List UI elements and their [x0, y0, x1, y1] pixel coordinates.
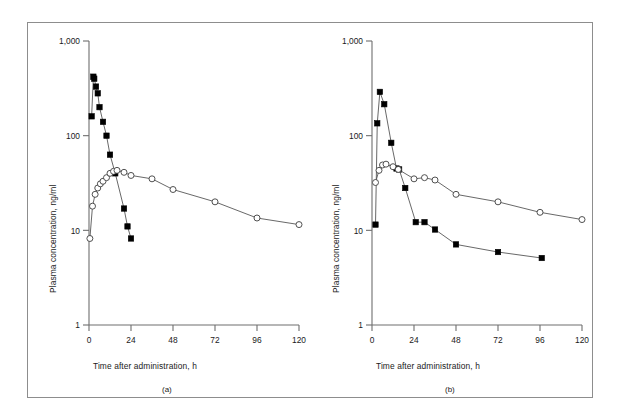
- plot-area-b: 1101001,000024487296120: [311, 23, 594, 399]
- svg-text:48: 48: [451, 335, 461, 345]
- chart-panel-a: 1101001,000024487296120 Plasma concentra…: [28, 23, 311, 399]
- data-point-filled-square: [92, 76, 97, 81]
- data-point-open-circle: [395, 166, 401, 172]
- svg-text:120: 120: [292, 335, 306, 345]
- svg-text:100: 100: [349, 131, 363, 141]
- figure-border: 1101001,000024487296120 Plasma concentra…: [27, 22, 593, 398]
- svg-text:48: 48: [168, 335, 178, 345]
- data-point-filled-square: [377, 89, 382, 94]
- y-axis-title-a: Plasma concentration, ng/ml: [48, 185, 58, 293]
- x-axis-title-a: Time after administration, h: [93, 361, 197, 371]
- y-axis-title-b: Plasma concentration, ng/ml: [331, 185, 341, 293]
- svg-text:72: 72: [493, 335, 503, 345]
- svg-text:10: 10: [71, 226, 81, 236]
- data-point-open-circle: [432, 177, 438, 183]
- svg-text:120: 120: [575, 335, 589, 345]
- data-point-open-circle: [212, 199, 218, 205]
- svg-text:10: 10: [354, 226, 364, 236]
- data-point-filled-square: [422, 219, 427, 224]
- data-point-open-circle: [296, 222, 302, 228]
- data-point-filled-square: [100, 119, 105, 124]
- data-point-filled-square: [495, 249, 500, 254]
- data-point-open-circle: [121, 169, 127, 175]
- panel-caption-b: (b): [445, 385, 455, 394]
- data-point-open-circle: [453, 191, 459, 197]
- data-point-open-circle: [254, 215, 260, 221]
- data-point-open-circle: [376, 167, 382, 173]
- data-point-filled-square: [539, 255, 544, 260]
- svg-text:96: 96: [252, 335, 262, 345]
- panel-caption-a: (a): [162, 385, 172, 394]
- svg-text:72: 72: [210, 335, 220, 345]
- data-point-filled-square: [375, 121, 380, 126]
- data-point-open-circle: [422, 175, 428, 181]
- data-point-filled-square: [95, 91, 100, 96]
- data-point-filled-square: [453, 242, 458, 247]
- svg-text:24: 24: [409, 335, 419, 345]
- svg-text:1,000: 1,000: [342, 36, 363, 46]
- data-point-filled-square: [125, 224, 130, 229]
- svg-text:1: 1: [75, 320, 80, 330]
- data-point-filled-square: [373, 222, 378, 227]
- svg-text:24: 24: [126, 335, 136, 345]
- data-point-open-circle: [170, 187, 176, 193]
- svg-text:96: 96: [535, 335, 545, 345]
- data-point-open-circle: [149, 176, 155, 182]
- series-line-filled-square-series: [376, 92, 542, 258]
- data-point-filled-square: [104, 133, 109, 138]
- data-point-filled-square: [107, 152, 112, 157]
- chart-panel-b: 1101001,000024487296120 Plasma concentra…: [311, 23, 594, 399]
- data-point-filled-square: [93, 84, 98, 89]
- svg-text:1,000: 1,000: [59, 36, 80, 46]
- data-point-open-circle: [579, 217, 585, 223]
- data-point-open-circle: [87, 235, 93, 241]
- data-point-open-circle: [537, 209, 543, 215]
- data-point-filled-square: [121, 206, 126, 211]
- data-point-filled-square: [382, 102, 387, 107]
- data-point-filled-square: [413, 219, 418, 224]
- data-point-open-circle: [373, 180, 379, 186]
- series-line-open-circle-series: [90, 170, 299, 238]
- data-point-open-circle: [495, 199, 501, 205]
- data-point-filled-square: [128, 236, 133, 241]
- x-axis-title-b: Time after administration, h: [376, 361, 480, 371]
- data-point-open-circle: [90, 203, 96, 209]
- svg-text:100: 100: [66, 131, 80, 141]
- data-point-open-circle: [114, 167, 120, 173]
- svg-text:0: 0: [87, 335, 92, 345]
- data-point-filled-square: [97, 104, 102, 109]
- plot-area-a: 1101001,000024487296120: [28, 23, 311, 399]
- svg-text:0: 0: [370, 335, 375, 345]
- data-point-open-circle: [128, 172, 134, 178]
- data-point-open-circle: [92, 191, 98, 197]
- data-point-open-circle: [383, 161, 389, 167]
- data-point-filled-square: [432, 227, 437, 232]
- svg-text:1: 1: [358, 320, 363, 330]
- data-point-filled-square: [403, 185, 408, 190]
- data-point-filled-square: [389, 140, 394, 145]
- data-point-filled-square: [89, 114, 94, 119]
- data-point-open-circle: [411, 176, 417, 182]
